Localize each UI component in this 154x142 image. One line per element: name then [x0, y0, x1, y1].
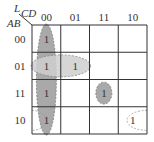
row-header: 11 [15, 87, 26, 99]
row-header: 00 [15, 33, 27, 45]
cell-value: 1 [44, 87, 50, 99]
corner-label-l: L [13, 2, 20, 14]
row-header: 01 [15, 60, 26, 72]
cell-value: 1 [101, 87, 107, 99]
karnaugh-map: L CD AB 0001111000011110 1111111 [0, 0, 154, 142]
col-header: 10 [127, 11, 139, 23]
row-var-label: AB [6, 17, 21, 29]
cell-value: 1 [72, 60, 78, 72]
col-header: 00 [41, 11, 53, 23]
row-header: 10 [15, 114, 27, 126]
cell-value: 1 [44, 60, 50, 72]
col-header: 11 [99, 11, 110, 23]
cell-value: 1 [130, 114, 136, 126]
col-header: 01 [70, 11, 81, 23]
cell-value: 1 [44, 114, 50, 126]
cell-value: 1 [44, 33, 50, 45]
